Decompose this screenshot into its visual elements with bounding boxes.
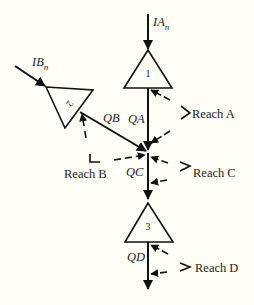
reach-d-bracket-icon (180, 263, 190, 271)
node-3-label: 3 (146, 221, 151, 232)
river-network-diagram: IAn 1 QA Reach A IBn 2 QB Reach B QC Rea… (0, 0, 254, 305)
reach-a-marker-bottom (151, 131, 170, 143)
reach-d-marker-bottom (151, 272, 167, 274)
reach-d-label: Reach D (195, 261, 238, 275)
reach-b-marker-right (114, 155, 145, 160)
reach-c-marker-top (151, 157, 168, 163)
inflow-ia-label: IAn (152, 15, 170, 32)
node-2-label: 2 (64, 99, 76, 109)
reach-c-marker-bottom (151, 180, 167, 183)
reach-a-bracket-icon (181, 106, 190, 119)
flow-qc-label: QC (126, 165, 144, 179)
reach-c-label: Reach C (193, 166, 236, 180)
reach-b-marker-up (82, 114, 86, 138)
flow-qa-label: QA (128, 112, 145, 126)
node-2-triangle (46, 87, 93, 128)
reach-d-marker-top (151, 245, 168, 254)
flow-qb-label: QB (103, 111, 120, 125)
reach-a-label: Reach A (192, 107, 235, 121)
node-1-label: 1 (146, 68, 151, 79)
reach-b-label: Reach B (64, 167, 107, 181)
inflow-ib-arrow (15, 66, 45, 86)
reach-b-bracket-icon (90, 154, 100, 162)
flow-qd-label: QD (127, 250, 145, 264)
inflow-ib-label: IBn (31, 55, 49, 72)
reach-c-bracket-icon (180, 162, 190, 171)
reach-a-marker-top (151, 90, 170, 100)
